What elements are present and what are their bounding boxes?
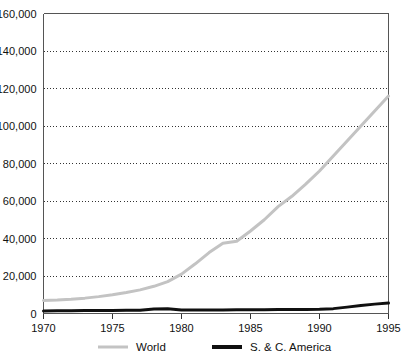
y-axis-tick-label: 140,000 <box>0 45 37 57</box>
legend-label-world: World <box>136 341 166 353</box>
y-axis-tick-label: 60,000 <box>3 195 37 207</box>
y-axis-tick-label: 0 <box>30 308 36 320</box>
x-axis-tick-label: 1985 <box>238 322 262 334</box>
x-axis-tick-label: 1975 <box>100 322 124 334</box>
x-axis-tick-label: 1990 <box>307 322 331 334</box>
x-axis-tick-label: 1970 <box>31 322 55 334</box>
y-axis-tick-label: 120,000 <box>0 83 37 95</box>
y-axis-tick-label: 160,000 <box>0 8 37 20</box>
y-axis-tick-label: 20,000 <box>3 270 37 282</box>
chart-background <box>0 0 404 360</box>
x-axis-tick-label: 1995 <box>376 322 400 334</box>
line-chart: 020,00040,00060,00080,000100,000120,0001… <box>0 0 404 360</box>
y-axis-tick-labels: 020,00040,00060,00080,000100,000120,0001… <box>0 8 37 320</box>
y-axis-tick-label: 100,000 <box>0 120 37 132</box>
y-axis-tick-label: 40,000 <box>3 233 37 245</box>
x-axis-tick-label: 1980 <box>169 322 193 334</box>
chart-container: 020,00040,00060,00080,000100,000120,0001… <box>0 0 404 360</box>
legend-label-south-central-america: S. & C. America <box>250 341 332 353</box>
y-axis-tick-label: 80,000 <box>3 158 37 170</box>
